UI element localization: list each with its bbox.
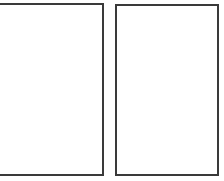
left-page-panel[interactable] [0,3,104,176]
right-page-panel[interactable] [115,4,219,176]
